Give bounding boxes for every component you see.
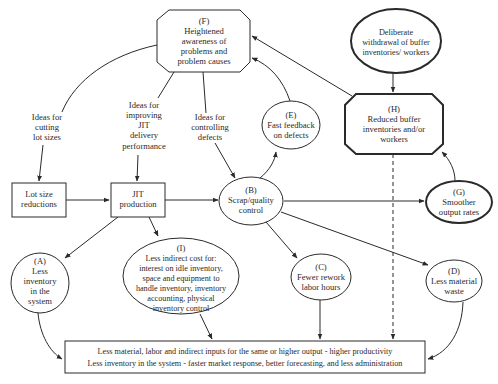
svg-text:control: control: [239, 205, 264, 215]
svg-text:(I): (I): [177, 243, 186, 253]
svg-text:Ideas for: Ideas for: [32, 112, 62, 122]
svg-text:Fast feedback: Fast feedback: [267, 120, 315, 130]
edge-label-cutting: Ideas for cutting lot sizes: [32, 112, 62, 142]
svg-text:defects: defects: [198, 132, 223, 142]
node-b: (B) Scrap/quality control: [219, 177, 283, 225]
svg-text:inventories/ workers: inventories/ workers: [362, 48, 429, 57]
svg-text:system: system: [28, 296, 52, 306]
node-d: (D) Less material waste: [426, 260, 482, 302]
svg-text:reductions: reductions: [21, 199, 57, 209]
edge-label-improving: Ideas for improving JIT delivery perform…: [122, 100, 166, 151]
node-g: (G) Smoother output rates: [426, 181, 492, 223]
svg-text:Smoother: Smoother: [442, 197, 476, 207]
node-deliberate-withdrawal: Deliberate withdrawal of buffer inventor…: [351, 9, 441, 73]
svg-text:withdrawal of buffer: withdrawal of buffer: [362, 38, 430, 47]
svg-text:inventory: inventory: [24, 276, 58, 286]
edge-f-to-controlling: [203, 72, 206, 113]
svg-text:JIT: JIT: [138, 120, 150, 130]
svg-text:(G): (G): [453, 187, 465, 197]
svg-text:Ideas for: Ideas for: [195, 112, 225, 122]
svg-text:awareness of: awareness of: [182, 36, 227, 46]
edge-cutting-to-lotsize: [39, 145, 43, 181]
svg-text:inventories and/or: inventories and/or: [363, 124, 425, 134]
node-outcome: Less material, labor and indirect inputs…: [65, 341, 425, 373]
node-h: (H) Reduced buffer inventories and/or wo…: [345, 94, 443, 154]
svg-text:lot sizes: lot sizes: [33, 132, 62, 142]
svg-text:space and equipment to: space and equipment to: [142, 274, 219, 283]
jit-diagram: (F) Heightened awareness of problems and…: [0, 0, 498, 384]
svg-text:handle inventory, inventory: handle inventory, inventory: [136, 284, 227, 293]
svg-text:inventory control: inventory control: [153, 304, 210, 313]
svg-text:controlling: controlling: [191, 122, 229, 132]
svg-text:interest on idle inventory,: interest on idle inventory,: [139, 264, 223, 273]
svg-text:Lot size: Lot size: [25, 189, 53, 199]
svg-text:(E): (E): [286, 110, 297, 120]
edge-f-to-improving: [158, 72, 174, 98]
svg-text:(A): (A): [34, 256, 46, 266]
edge-g-to-h: [442, 152, 455, 181]
svg-text:Scrap/quality: Scrap/quality: [228, 195, 275, 205]
svg-text:in the: in the: [30, 286, 50, 296]
edge-d-to-outcome: [428, 302, 463, 359]
edge-controlling-to-b: [215, 143, 235, 178]
svg-text:JIT: JIT: [132, 189, 144, 199]
edge-jit-to-a: [65, 217, 118, 258]
svg-text:problem causes: problem causes: [177, 56, 231, 66]
node-f: (F) Heightened awareness of problems and…: [157, 10, 250, 72]
svg-text:Deliberate: Deliberate: [379, 28, 413, 37]
svg-text:Ideas for: Ideas for: [129, 100, 159, 110]
svg-text:delivery: delivery: [130, 130, 159, 140]
node-f-label: (F): [199, 16, 210, 26]
edge-improving-to-jit: [137, 155, 138, 181]
svg-text:cutting: cutting: [35, 122, 60, 132]
edge-a-to-outcome: [38, 313, 62, 359]
node-e: (E) Fast feedback on defects: [262, 101, 320, 149]
svg-text:Reduced buffer: Reduced buffer: [367, 114, 420, 124]
svg-text:accounting, physical: accounting, physical: [147, 294, 215, 303]
svg-text:Less inventory in the system -: Less inventory in the system - faster ma…: [88, 359, 403, 368]
svg-text:Less material: Less material: [431, 276, 478, 286]
svg-text:Less: Less: [32, 266, 48, 276]
edge-jit-to-i: [149, 217, 158, 236]
node-a: (A) Less inventory in the system: [11, 253, 69, 313]
svg-text:on defects: on defects: [273, 130, 309, 140]
node-c: (C) Fewer rework labor hours: [291, 254, 351, 300]
node-jit-production: JIT production: [111, 183, 165, 217]
svg-text:(C): (C): [315, 262, 327, 272]
svg-text:workers: workers: [380, 134, 408, 144]
edge-i-to-outcome: [200, 314, 212, 339]
svg-text:improving: improving: [126, 110, 163, 120]
svg-text:(B): (B): [245, 185, 257, 195]
edge-e-to-f: [252, 58, 290, 101]
edge-b-to-d: [281, 212, 428, 265]
svg-text:Less material, labor and indir: Less material, labor and indirect inputs…: [98, 347, 394, 356]
svg-text:Heightened: Heightened: [184, 26, 224, 36]
svg-text:Fewer rework: Fewer rework: [297, 272, 346, 282]
svg-text:performance: performance: [122, 141, 166, 151]
svg-text:(D): (D): [448, 266, 460, 276]
svg-text:problems and: problems and: [181, 46, 228, 56]
svg-text:production: production: [119, 199, 157, 209]
node-i: (I) Less indirect cost for: interest on …: [123, 238, 239, 314]
edge-b-to-c: [266, 222, 297, 258]
svg-text:Less indirect cost for:: Less indirect cost for:: [145, 254, 216, 263]
edge-label-controlling: Ideas for controlling defects: [191, 112, 229, 142]
svg-text:output rates: output rates: [439, 207, 480, 217]
edge-b-to-e: [260, 152, 276, 178]
svg-text:labor hours: labor hours: [302, 282, 342, 292]
node-lot-size-reductions: Lot size reductions: [12, 183, 66, 217]
svg-text:(H): (H): [388, 104, 400, 114]
svg-text:waste: waste: [444, 286, 464, 296]
